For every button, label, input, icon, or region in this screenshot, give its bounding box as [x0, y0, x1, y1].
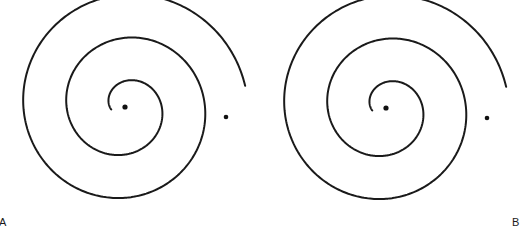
spiral-center-dot-b	[383, 105, 388, 110]
spiral-center-dot-a	[122, 104, 127, 109]
panel-label-b: B	[512, 217, 520, 228]
spiral-outer-dot-a	[224, 115, 229, 120]
figure-background	[0, 0, 524, 235]
spiral-outer-dot-b	[485, 116, 490, 121]
spiral-figure-svg	[0, 0, 524, 235]
panel-label-a: A	[0, 217, 7, 228]
figure-container: A B	[0, 0, 524, 235]
